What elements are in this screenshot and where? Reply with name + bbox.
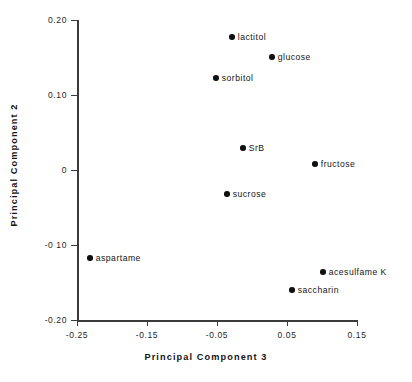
data-point-label: lactitol [238,32,266,42]
data-point-marker-icon [289,287,295,293]
data-point-marker-icon [229,34,235,40]
x-tick-label: 0.05 [278,330,297,340]
data-point: SrB [240,143,264,153]
x-tick-mark [357,320,358,326]
x-tick-mark [147,320,148,326]
y-axis-line [77,20,79,321]
x-tick-mark [77,320,78,326]
data-point: lactitol [229,32,266,42]
y-tick-label: -0.20 [45,315,67,325]
data-point-label: acesulfame K [329,267,387,277]
data-point-marker-icon [240,145,246,151]
y-tick-mark [71,245,77,246]
data-point-marker-icon [224,191,230,197]
y-tick-label: 0.20 [48,15,67,25]
data-point-label: glucose [278,52,311,62]
data-point-marker-icon [269,54,275,60]
data-point-label: sorbitol [222,73,254,83]
data-point-label: saccharin [298,285,339,295]
y-axis-title: Principal Component 2 [9,65,19,265]
data-point: sucrose [224,189,266,199]
data-point-label: aspartame [96,253,141,263]
x-tick-mark [217,320,218,326]
y-tick-mark [71,95,77,96]
data-point-marker-icon [213,75,219,81]
y-tick-label: 0.10 [48,90,67,100]
x-tick-label: 0.15 [348,330,367,340]
data-point-marker-icon [312,161,318,167]
data-point: sorbitol [213,73,253,83]
x-tick-label: -0.25 [66,330,88,340]
data-point: fructose [312,159,355,169]
y-tick-mark [71,20,77,21]
x-tick-mark [287,320,288,326]
data-point-marker-icon [320,269,326,275]
y-tick-mark [71,170,77,171]
x-tick-label: -0.15 [136,330,158,340]
x-tick-label: -0.05 [206,330,228,340]
data-point: acesulfame K [320,267,387,277]
data-point-label: sucrose [233,189,267,199]
x-axis-title: Principal Component 3 [0,352,412,362]
data-point-marker-icon [87,255,93,261]
data-point-label: SrB [249,143,265,153]
y-tick-label: 0 [62,165,67,175]
data-point: aspartame [87,253,141,263]
scatter-plot: 0.200.100-0 10-0.20 -0.25-0.15-0.050.050… [0,0,412,382]
data-point: saccharin [289,285,339,295]
data-point-label: fructose [321,159,356,169]
data-point: glucose [269,52,311,62]
y-tick-label: -0 10 [45,240,67,250]
